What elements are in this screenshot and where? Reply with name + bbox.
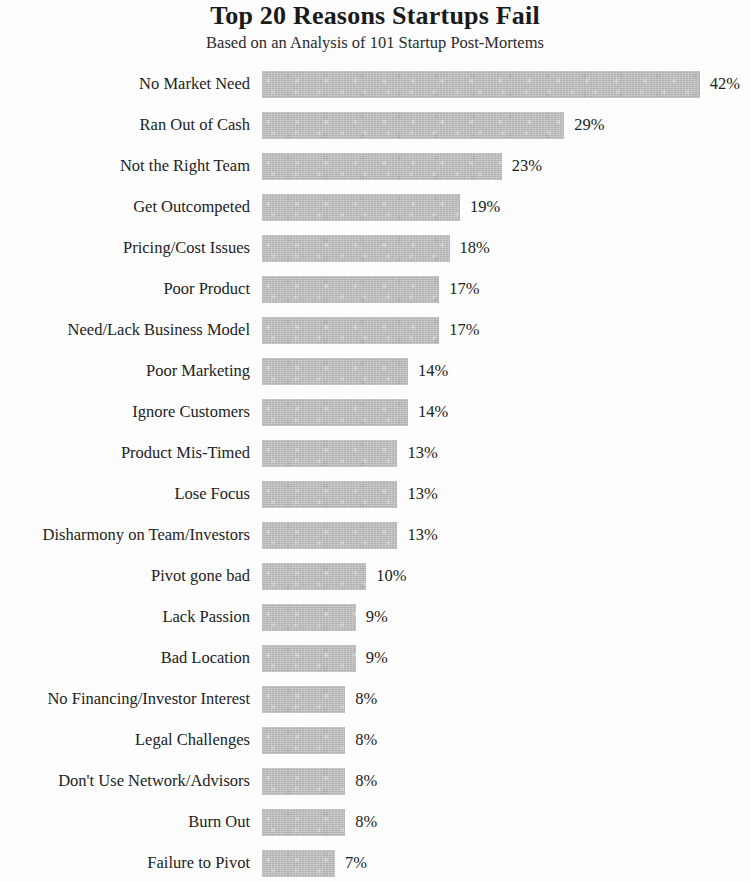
bar-track: 17%: [250, 317, 750, 344]
bar-row: Legal Challenges8%: [0, 720, 750, 761]
category-label: Pricing/Cost Issues: [0, 240, 250, 257]
bar-row: Lack Passion9%: [0, 597, 750, 638]
bar-track: 8%: [250, 686, 750, 713]
bar: [262, 768, 345, 795]
bar-row: Poor Product17%: [0, 269, 750, 310]
bar-row: No Market Need42%: [0, 64, 750, 105]
value-label: 8%: [355, 773, 377, 790]
bar: [262, 153, 502, 180]
bar-row: Poor Marketing14%: [0, 351, 750, 392]
value-label: 10%: [376, 568, 406, 585]
category-label: Don't Use Network/Advisors: [0, 773, 250, 790]
title-block: Top 20 Reasons Startups Fail Based on an…: [0, 0, 750, 52]
bar: [262, 358, 408, 385]
bar-row: Disharmony on Team/Investors13%: [0, 515, 750, 556]
bar-row: Product Mis-Timed13%: [0, 433, 750, 474]
value-label: 13%: [407, 527, 437, 544]
category-label: No Financing/Investor Interest: [0, 691, 250, 708]
category-label: Pivot gone bad: [0, 568, 250, 585]
category-label: Burn Out: [0, 814, 250, 831]
value-label: 14%: [418, 363, 448, 380]
bar: [262, 686, 345, 713]
bar-chart-plot-area: No Market Need42%Ran Out of Cash29%Not t…: [0, 64, 750, 881]
value-label: 42%: [710, 76, 740, 93]
bar-track: 7%: [250, 850, 750, 877]
bar: [262, 235, 450, 262]
bar-track: 23%: [250, 153, 750, 180]
bar-row: Failure to Pivot7%: [0, 843, 750, 881]
bar-row: Bad Location9%: [0, 638, 750, 679]
value-label: 19%: [470, 199, 500, 216]
chart-subtitle: Based on an Analysis of 101 Startup Post…: [0, 34, 750, 52]
value-label: 9%: [366, 609, 388, 626]
value-label: 8%: [355, 732, 377, 749]
bar-track: 8%: [250, 727, 750, 754]
bar-track: 42%: [250, 71, 750, 98]
bar: [262, 645, 356, 672]
bar-track: 9%: [250, 645, 750, 672]
category-label: Not the Right Team: [0, 158, 250, 175]
bar-track: 8%: [250, 768, 750, 795]
bar: [262, 727, 345, 754]
bar-track: 18%: [250, 235, 750, 262]
value-label: 23%: [512, 158, 542, 175]
bar: [262, 563, 366, 590]
bar-track: 29%: [250, 112, 750, 139]
bar-track: 19%: [250, 194, 750, 221]
bar: [262, 112, 564, 139]
category-label: Get Outcompeted: [0, 199, 250, 216]
value-label: 8%: [355, 814, 377, 831]
bar-row: Ran Out of Cash29%: [0, 105, 750, 146]
category-label: Failure to Pivot: [0, 855, 250, 872]
bar: [262, 194, 460, 221]
bar: [262, 522, 397, 549]
bar: [262, 440, 397, 467]
category-label: Product Mis-Timed: [0, 445, 250, 462]
value-label: 14%: [418, 404, 448, 421]
bar-row: Pricing/Cost Issues18%: [0, 228, 750, 269]
category-label: Bad Location: [0, 650, 250, 667]
category-label: Disharmony on Team/Investors: [0, 527, 250, 544]
bar-track: 10%: [250, 563, 750, 590]
category-label: Need/Lack Business Model: [0, 322, 250, 339]
value-label: 17%: [449, 281, 479, 298]
value-label: 7%: [345, 855, 367, 872]
category-label: Lack Passion: [0, 609, 250, 626]
chart-title: Top 20 Reasons Startups Fail: [0, 2, 750, 30]
bar-track: 9%: [250, 604, 750, 631]
bar-track: 8%: [250, 809, 750, 836]
bar: [262, 809, 345, 836]
category-label: No Market Need: [0, 76, 250, 93]
category-label: Lose Focus: [0, 486, 250, 503]
bar: [262, 317, 439, 344]
value-label: 17%: [449, 322, 479, 339]
bar-track: 13%: [250, 522, 750, 549]
bar-track: 14%: [250, 399, 750, 426]
bar-row: Don't Use Network/Advisors8%: [0, 761, 750, 802]
bar-row: Lose Focus13%: [0, 474, 750, 515]
bar: [262, 276, 439, 303]
bar: [262, 604, 356, 631]
category-label: Legal Challenges: [0, 732, 250, 749]
bar: [262, 399, 408, 426]
bar-row: Need/Lack Business Model17%: [0, 310, 750, 351]
bar: [262, 481, 397, 508]
category-label: Ignore Customers: [0, 404, 250, 421]
bar-row: Not the Right Team23%: [0, 146, 750, 187]
bar: [262, 71, 700, 98]
bar-row: Ignore Customers14%: [0, 392, 750, 433]
value-label: 8%: [355, 691, 377, 708]
value-label: 9%: [366, 650, 388, 667]
category-label: Poor Product: [0, 281, 250, 298]
category-label: Ran Out of Cash: [0, 117, 250, 134]
bar-track: 13%: [250, 481, 750, 508]
bar: [262, 850, 335, 877]
bar-row: Burn Out8%: [0, 802, 750, 843]
category-label: Poor Marketing: [0, 363, 250, 380]
value-label: 18%: [460, 240, 490, 257]
value-label: 29%: [574, 117, 604, 134]
bar-row: No Financing/Investor Interest8%: [0, 679, 750, 720]
value-label: 13%: [407, 486, 437, 503]
bar-track: 13%: [250, 440, 750, 467]
